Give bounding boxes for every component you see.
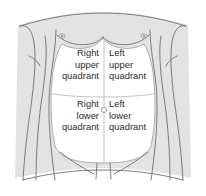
- torso-illustration: [0, 0, 206, 196]
- umbilicus-icon: [101, 107, 106, 112]
- label-right-lower-quadrant: Right lower quadrant: [62, 99, 99, 134]
- label-left-upper-quadrant: Left upper quadrant: [109, 48, 146, 83]
- label-llq-line1: Left: [109, 99, 146, 111]
- abdominal-quadrants-figure: Right upper quadrant Left upper quadrant…: [0, 0, 206, 196]
- label-rlq-line2: lower: [62, 111, 99, 123]
- label-luq-line2: upper: [109, 60, 146, 72]
- label-rlq-line1: Right: [62, 99, 99, 111]
- label-ruq-line2: upper: [62, 60, 99, 72]
- label-ruq-line3: quadrant: [62, 71, 99, 83]
- label-llq-line2: lower: [109, 111, 146, 123]
- label-rlq-line3: quadrant: [62, 122, 99, 134]
- label-right-upper-quadrant: Right upper quadrant: [62, 48, 99, 83]
- label-left-lower-quadrant: Left lower quadrant: [109, 99, 146, 134]
- label-llq-line3: quadrant: [109, 122, 146, 134]
- label-luq-line3: quadrant: [109, 71, 146, 83]
- label-luq-line1: Left: [109, 48, 146, 60]
- label-ruq-line1: Right: [62, 48, 99, 60]
